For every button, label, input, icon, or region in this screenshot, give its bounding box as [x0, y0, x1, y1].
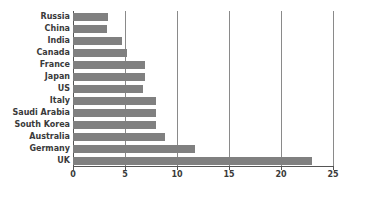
bar-row	[73, 121, 333, 129]
y-axis-label-china: China	[2, 25, 70, 33]
bar	[73, 157, 312, 165]
x-tick-label-25: 25	[318, 170, 348, 179]
bar-row	[73, 97, 333, 105]
x-axis-baseline	[73, 166, 334, 167]
x-tick-label-5: 5	[110, 170, 140, 179]
bar	[73, 25, 107, 33]
x-tick-label-15: 15	[214, 170, 244, 179]
bar	[73, 97, 156, 105]
y-axis-label-south-korea: South Korea	[2, 121, 70, 129]
plot-area	[73, 11, 333, 166]
gridline-25	[333, 11, 334, 166]
bar	[73, 49, 127, 57]
bar	[73, 145, 195, 153]
bar-row	[73, 37, 333, 45]
y-axis-label-india: India	[2, 37, 70, 45]
y-axis-category-labels: RussiaChinaIndiaCanadaFranceJapanUSItaly…	[0, 11, 70, 166]
bar	[73, 109, 156, 117]
x-tick-label-20: 20	[266, 170, 296, 179]
bar-row	[73, 133, 333, 141]
bar-row	[73, 13, 333, 21]
y-axis-label-us: US	[2, 85, 70, 93]
bar-row	[73, 85, 333, 93]
bar	[73, 61, 145, 69]
horizontal-bar-chart: RussiaChinaIndiaCanadaFranceJapanUSItaly…	[0, 0, 376, 198]
bar-row	[73, 25, 333, 33]
y-axis-label-uk: UK	[2, 157, 70, 165]
bar-row	[73, 157, 333, 165]
y-axis-label-russia: Russia	[2, 13, 70, 21]
bar-row	[73, 61, 333, 69]
bar	[73, 73, 145, 81]
bar-row	[73, 145, 333, 153]
bar	[73, 133, 165, 141]
bar	[73, 13, 108, 21]
y-axis-label-canada: Canada	[2, 49, 70, 57]
y-axis-label-australia: Australia	[2, 133, 70, 141]
y-axis-label-saudi-arabia: Saudi Arabia	[2, 109, 70, 117]
y-axis-label-france: France	[2, 61, 70, 69]
y-axis-label-italy: Italy	[2, 97, 70, 105]
bar	[73, 85, 143, 93]
bar-row	[73, 49, 333, 57]
bar-row	[73, 73, 333, 81]
x-tick-label-10: 10	[162, 170, 192, 179]
x-tick-label-0: 0	[58, 170, 88, 179]
y-axis-label-germany: Germany	[2, 145, 70, 153]
bar	[73, 121, 156, 129]
bar	[73, 37, 122, 45]
y-axis-label-japan: Japan	[2, 73, 70, 81]
bar-row	[73, 109, 333, 117]
